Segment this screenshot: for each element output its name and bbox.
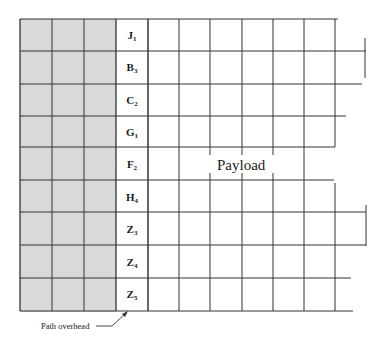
path-overhead-caption: Path overhead (41, 322, 89, 331)
row-label-5: F2 (116, 159, 148, 172)
row-label-6: H4 (116, 192, 148, 205)
row-label-9: Z5 (116, 289, 148, 302)
frame-grid (0, 0, 386, 344)
row-label-3: C2 (116, 95, 148, 108)
path-overhead-arrow (96, 313, 126, 326)
shaded-overhead-region (20, 19, 116, 312)
row-label-8: Z4 (116, 257, 148, 270)
row-label-4: G1 (116, 127, 148, 140)
row-label-2: B3 (116, 62, 148, 75)
row-label-1: J1 (116, 30, 148, 43)
payload-label: Payload (215, 158, 267, 173)
row-label-7: Z3 (116, 224, 148, 237)
